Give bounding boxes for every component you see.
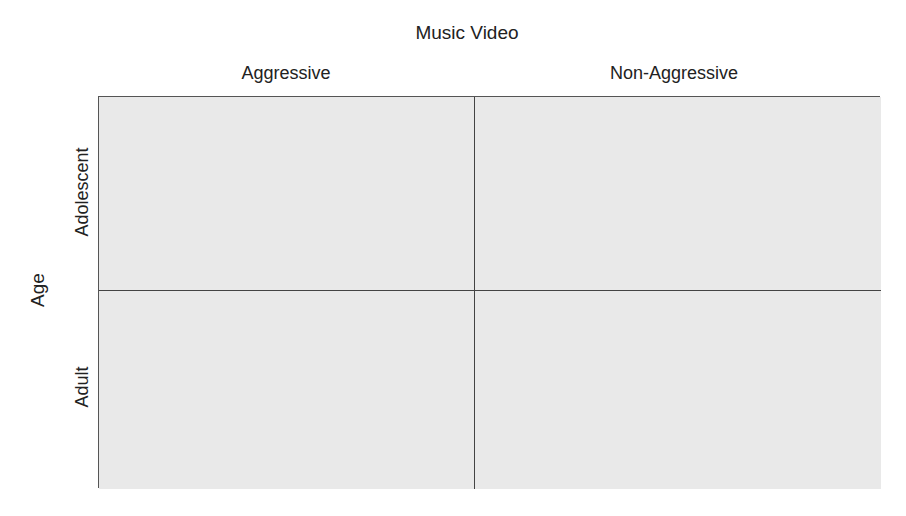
cell-adolescent-non-aggressive	[475, 97, 881, 291]
cell-adult-aggressive	[99, 291, 475, 489]
column-factor-title: Music Video	[0, 22, 906, 44]
cell-adult-non-aggressive	[475, 291, 881, 489]
row-label-adult: Adult	[72, 366, 93, 407]
row-label-adolescent: Adolescent	[72, 147, 93, 236]
cell-adolescent-aggressive	[99, 97, 475, 291]
column-label-aggressive: Aggressive	[241, 63, 330, 84]
row-factor-title: Age	[27, 273, 49, 307]
factorial-design-grid	[98, 96, 880, 488]
column-label-non-aggressive: Non-Aggressive	[610, 63, 738, 84]
